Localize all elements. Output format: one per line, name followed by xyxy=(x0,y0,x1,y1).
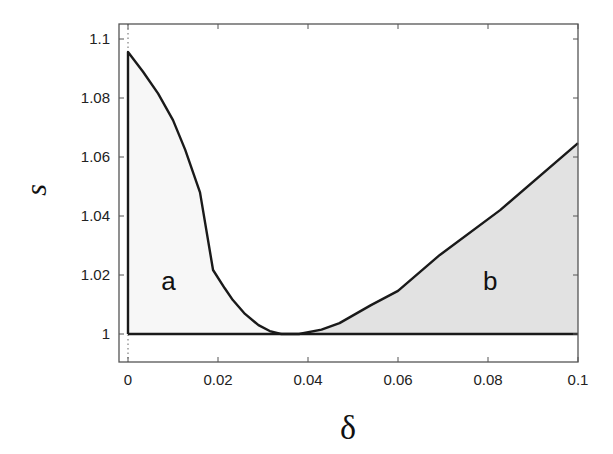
y-axis-label: s xyxy=(19,184,52,196)
region-a-polygon xyxy=(128,52,281,334)
y-tick-label: 1.1 xyxy=(89,30,110,47)
x-tick-label: 0.1 xyxy=(568,371,589,388)
chart-canvas: 00.020.040.060.080.1 11.021.041.061.081.… xyxy=(0,0,613,454)
x-tick-label: 0 xyxy=(124,371,132,388)
y-tick-label: 1.08 xyxy=(81,89,110,106)
region-b-polygon xyxy=(281,143,578,334)
region-label-b: b xyxy=(483,266,497,296)
x-tick-label: 0.02 xyxy=(203,371,232,388)
y-tick-label: 1 xyxy=(102,325,110,342)
region-label-a: a xyxy=(161,266,176,296)
y-tick-label: 1.06 xyxy=(81,148,110,165)
x-tick-label: 0.08 xyxy=(473,371,502,388)
x-tick-label: 0.04 xyxy=(293,371,322,388)
region-a-fill xyxy=(128,52,281,334)
x-axis-label: δ xyxy=(340,409,356,446)
y-tick-label: 1.02 xyxy=(81,266,110,283)
x-tick-label: 0.06 xyxy=(383,371,412,388)
y-tick-label: 1.04 xyxy=(81,207,110,224)
region-b-fill xyxy=(281,143,578,334)
